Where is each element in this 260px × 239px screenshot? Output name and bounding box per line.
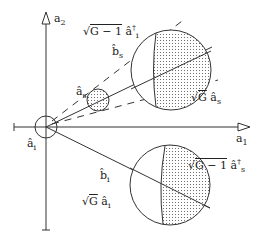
y-axis bbox=[42, 12, 50, 230]
idler-input-label: âi bbox=[27, 138, 36, 152]
y-axis-label: a2 bbox=[54, 13, 66, 27]
lower-amplified-idler-term: √G âi bbox=[82, 196, 110, 210]
x-axis-label: a1 bbox=[236, 133, 248, 147]
signal-input-circle bbox=[87, 89, 109, 111]
upper-amplified-signal-term: √G âs bbox=[191, 92, 221, 106]
idler-output-circle bbox=[130, 140, 215, 225]
idler-output-label: b̂i bbox=[100, 170, 110, 184]
x-axis-arrow-icon bbox=[238, 123, 250, 131]
signal-input-label: âs bbox=[76, 86, 87, 100]
x-axis bbox=[14, 123, 250, 131]
y-axis-arrow-icon bbox=[42, 12, 50, 24]
signal-output-label: b̂s bbox=[112, 46, 123, 60]
lower-amplified-signal-conj-term: √G − 1 â†s bbox=[188, 158, 245, 174]
upper-amplified-idler-term: √G − 1 â†i bbox=[83, 24, 139, 40]
